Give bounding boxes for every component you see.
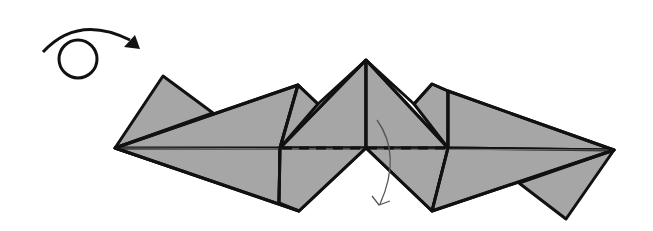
origami-diagram [0, 0, 653, 231]
lower-left-wing [279, 148, 366, 211]
turn-over-icon [43, 29, 140, 78]
